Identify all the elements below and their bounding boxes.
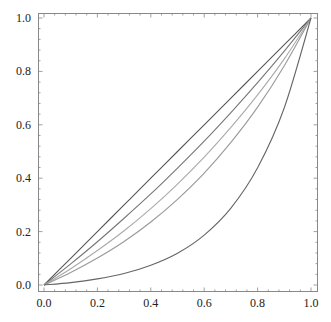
x-axis-tick-labels: 0.00.20.40.60.81.0	[37, 296, 319, 310]
y-tick-label: 0.0	[16, 278, 31, 292]
x-tick-label: 0.8	[250, 296, 265, 310]
y-tick-label: 0.2	[16, 225, 31, 239]
y-tick-label: 0.4	[16, 171, 31, 185]
x-tick-label: 0.0	[37, 296, 52, 310]
axis-ticks	[39, 14, 318, 292]
y-axis-tick-labels: 0.00.20.40.60.81.0	[16, 11, 31, 292]
y-tick-label: 0.8	[16, 64, 31, 78]
chart: 0.00.20.40.60.81.0 0.00.20.40.60.81.0	[0, 0, 331, 322]
y-tick-label: 0.6	[16, 118, 31, 132]
plot-series	[44, 18, 311, 285]
plot-frame	[39, 14, 318, 292]
x-tick-label: 0.4	[143, 296, 158, 310]
x-tick-label: 0.2	[90, 296, 105, 310]
x-tick-label: 0.6	[197, 296, 212, 310]
curve-1-line	[44, 18, 311, 285]
x-tick-label: 1.0	[304, 296, 319, 310]
y-tick-label: 1.0	[16, 11, 31, 25]
